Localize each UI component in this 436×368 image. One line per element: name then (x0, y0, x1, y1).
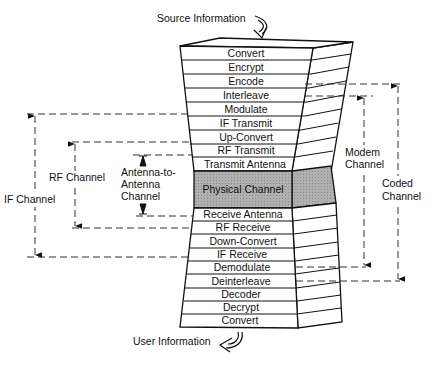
stack-row-interleave: Interleave (223, 89, 269, 101)
user-curved-arrow-icon (220, 332, 242, 352)
stack-row-transmit-antenna: Transmit Antenna (204, 158, 286, 170)
stack-row-deinterleave: Deinterleave (212, 275, 271, 287)
modem-channel-label-line1: Modem (345, 146, 380, 158)
stack-row-decrypt: Decrypt (223, 301, 259, 313)
communication-channel-diagram: Convert Encrypt Encode Interleave Modula… (0, 0, 436, 368)
user-information-label: User Information (133, 335, 211, 347)
physical-channel-label: Physical Channel (202, 183, 283, 195)
stack-row-convert-rx: Convert (222, 314, 259, 326)
coded-channel-label-line1: Coded (382, 177, 413, 189)
modem-channel-label-line2: Channel (345, 158, 384, 170)
stack-row-rf-receive: RF Receive (216, 221, 271, 233)
rf-channel-label: RF Channel (49, 171, 105, 183)
if-channel-label: IF Channel (4, 193, 55, 205)
stack-row-decoder: Decoder (221, 288, 261, 300)
stack-row-modulate: Modulate (224, 103, 267, 115)
stack-row-if-transmit: IF Transmit (220, 117, 273, 129)
source-information-label: Source Information (157, 12, 246, 24)
stack-row-rf-transmit: RF Transmit (217, 144, 274, 156)
stack-row-if-receive: IF Receive (217, 248, 267, 260)
stack-row-up-convert: Up-Convert (219, 131, 273, 143)
antenna-channel-label-line3: Channel (121, 190, 160, 202)
stack-row-encrypt: Encrypt (228, 61, 264, 73)
source-curved-arrow-icon (254, 16, 267, 38)
stack-row-down-convert: Down-Convert (209, 235, 276, 247)
stack-row-receive-antenna: Receive Antenna (203, 208, 283, 220)
coded-channel-label-line2: Channel (382, 190, 421, 202)
stack-row-encode: Encode (228, 75, 264, 87)
antenna-channel-label-line1: Antenna-to- (121, 166, 176, 178)
antenna-channel-label-line2: Antenna (121, 178, 160, 190)
stack-row-demodulate: Demodulate (214, 261, 271, 273)
stack-row-convert-tx: Convert (228, 47, 265, 59)
